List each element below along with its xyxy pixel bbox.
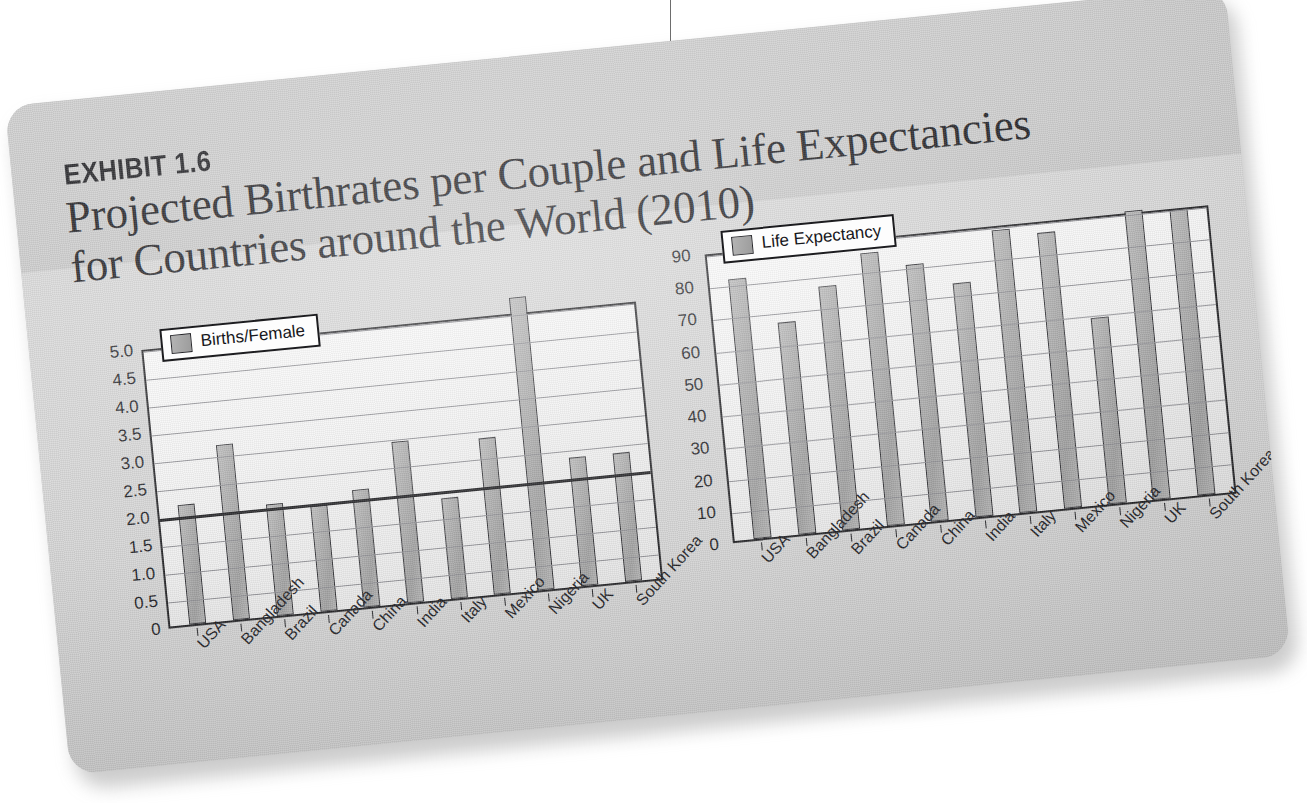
bar-mexico (1037, 231, 1082, 509)
chart-life-plot-outer: 0102030405060708090 Life Expectancy USAB… (649, 185, 1246, 646)
y-axis-tick-label: 3.0 (120, 452, 145, 474)
y-axis-tick-label: 10 (696, 503, 717, 525)
y-axis-tick-label: 80 (674, 278, 695, 300)
bar-bangladesh (216, 443, 250, 620)
bar-india (953, 282, 994, 518)
y-axis-tick-label: 30 (690, 438, 711, 460)
y-axis-tick-label: 70 (677, 310, 698, 332)
y-axis-tick-label: 4.5 (112, 369, 137, 391)
y-axis-tick-label: 4.0 (114, 397, 139, 419)
bar-usa (178, 503, 207, 624)
y-axis-tick-label: 1.0 (131, 564, 156, 586)
chart-births-legend-label: Births/Female (200, 321, 306, 351)
y-axis-tick-label: 90 (671, 246, 692, 268)
legend-swatch-icon (731, 234, 754, 255)
chart-life-legend-label: Life Expectancy (761, 221, 882, 253)
bar-bangladesh (777, 321, 816, 534)
y-axis-tick-label: 2.5 (122, 480, 147, 502)
y-axis-tick-label: 1.5 (128, 536, 153, 558)
chart-life-expectancy: 0102030405060708090 Life Expectancy USAB… (649, 185, 1246, 646)
bar-south-korea (1169, 209, 1215, 496)
chart-births-plot-outer: 00.51.01.52.02.53.03.54.04.55.0 Births/F… (92, 282, 674, 741)
bar-china (906, 263, 949, 521)
y-axis-tick-label: 3.5 (117, 424, 142, 446)
bar-canada (860, 252, 905, 526)
y-axis-tick-label: 0.5 (133, 592, 158, 614)
x-axis-label-uk: UK (589, 585, 617, 614)
y-axis-tick-label: 60 (680, 342, 701, 364)
y-axis-tick-label: 0 (150, 620, 161, 641)
y-axis-tick-label: 5.0 (109, 341, 134, 363)
exhibit-card: EXHIBIT 1.6 Projected Birthrates per Cou… (5, 0, 1291, 775)
y-axis-tick-label: 0 (709, 535, 720, 556)
chart-births-per-couple: 00.51.01.52.02.53.03.54.04.55.0 Births/F… (92, 282, 674, 741)
y-axis-tick-label: 40 (687, 406, 708, 428)
y-axis-tick-label: 50 (683, 374, 704, 396)
x-axis-label-uk: UK (1161, 499, 1189, 528)
exhibit-card-wrapper: EXHIBIT 1.6 Projected Birthrates per Cou… (5, 0, 1307, 803)
y-axis-tick-label: 2.0 (125, 508, 150, 530)
legend-swatch-icon (170, 333, 193, 354)
bar-uk (1124, 210, 1170, 500)
y-axis-tick-label: 20 (693, 470, 714, 492)
bar-italy (992, 229, 1038, 513)
